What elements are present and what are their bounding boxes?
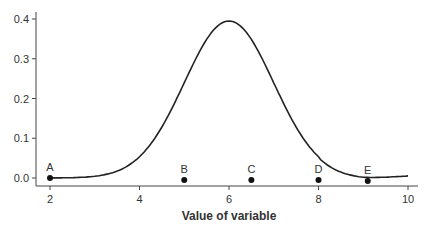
- y-tick-label: 0.2: [14, 93, 29, 105]
- point-b: [181, 177, 187, 183]
- point-label: D: [315, 163, 323, 175]
- density-curve: [50, 21, 408, 178]
- point-a: [47, 175, 53, 181]
- x-axis-label: Value of variable: [182, 209, 277, 223]
- x-tick-label: 10: [402, 193, 414, 205]
- x-tick-label: 6: [226, 193, 232, 205]
- x-tick-label: 2: [47, 193, 53, 205]
- point-label: C: [247, 163, 255, 175]
- y-tick-label: 0.1: [14, 132, 29, 144]
- y-tick-label: 0.4: [14, 13, 29, 25]
- point-e: [365, 178, 371, 184]
- density-chart: 0.00.10.20.30.4246810 ABCDE Value of var…: [0, 0, 437, 231]
- y-tick-label: 0.0: [14, 172, 29, 184]
- point-label: B: [181, 163, 188, 175]
- point-c: [248, 177, 254, 183]
- marked-points: ABCDE: [46, 161, 371, 184]
- point-label: A: [46, 161, 54, 173]
- y-tick-label: 0.3: [14, 53, 29, 65]
- x-tick-label: 8: [315, 193, 321, 205]
- point-label: E: [364, 164, 371, 176]
- x-tick-label: 4: [136, 193, 142, 205]
- point-d: [316, 177, 322, 183]
